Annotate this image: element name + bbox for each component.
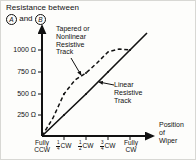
linear-point-quarter bbox=[63, 114, 65, 116]
linear-point-three-quarter bbox=[107, 71, 109, 73]
potentiometer-taper-chart: Resistance between A and B 1000 Ω 750 Ω … bbox=[0, 0, 196, 160]
plot-svg bbox=[1, 1, 196, 160]
nonlinear-point-quarter bbox=[63, 93, 65, 95]
nonlinear-point-half bbox=[85, 72, 87, 74]
linear-point-half bbox=[85, 93, 87, 95]
linear-point-fully-cw bbox=[129, 49, 131, 51]
linear-curve bbox=[42, 33, 147, 136]
annotation-linear-leader bbox=[99, 82, 114, 85]
annotation-tapered-leader bbox=[71, 58, 81, 75]
